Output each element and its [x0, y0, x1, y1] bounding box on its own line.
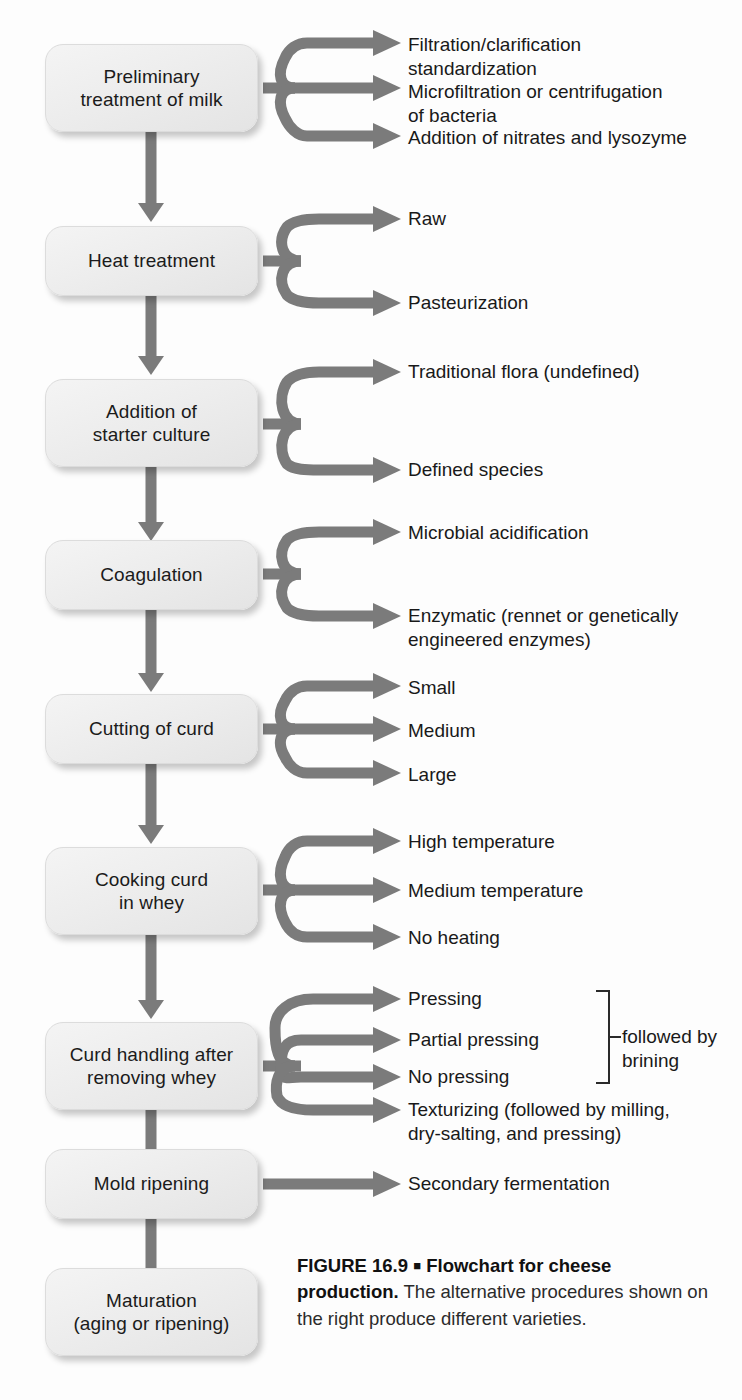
arrowhead-icon: [373, 673, 401, 699]
process-box-starter-culture: Addition of starter culture: [45, 379, 258, 467]
branch-option-label: Microbial acidification: [408, 521, 589, 545]
arrowhead-icon: [373, 760, 401, 786]
branch-option-label: Raw: [408, 207, 446, 231]
arrowhead-icon: [373, 924, 401, 950]
arrowhead-icon: [373, 877, 401, 903]
figure-separator-icon: ■: [413, 1258, 421, 1273]
connector-arrow-cutting-to-cooking: [138, 764, 164, 844]
branch-option-label: Texturizing (followed by milling, dry-sa…: [408, 1098, 670, 1145]
branch-group-coagulation: [255, 518, 415, 648]
branch-group-starter-culture: [255, 358, 415, 488]
bracket-note-label: followed by brining: [622, 1025, 717, 1072]
arrowhead-icon: [373, 519, 401, 545]
process-box-cutting-of-curd: Cutting of curd: [45, 694, 258, 764]
process-box-label: Cooking curd in whey: [95, 868, 208, 914]
figure-number: FIGURE 16.9: [297, 1255, 408, 1276]
arrowhead-icon: [373, 986, 401, 1012]
arrowhead-icon: [138, 522, 164, 541]
arrowhead-icon: [373, 1171, 401, 1197]
process-box-label: Addition of starter culture: [93, 400, 211, 446]
arrowhead-icon: [373, 123, 401, 149]
process-box-cooking-curd: Cooking curd in whey: [45, 847, 258, 935]
branch-group-heat-treatment: [255, 205, 415, 335]
branch-group-cutting-of-curd: [255, 665, 415, 805]
arrowhead-icon: [138, 825, 164, 844]
arrowhead-icon: [373, 828, 401, 854]
process-box-label: Coagulation: [100, 563, 203, 586]
arrowhead-icon: [138, 673, 164, 692]
process-box-curd-handling: Curd handling after removing whey: [45, 1022, 258, 1110]
branch-option-label: No pressing: [408, 1065, 509, 1089]
branch-option-label: Defined species: [408, 458, 543, 482]
arrowhead-icon: [373, 603, 401, 629]
branch-group-cooking-curd: [255, 817, 415, 957]
process-box-label: Heat treatment: [88, 249, 215, 272]
arrowhead-icon: [373, 290, 401, 316]
process-box-preliminary-treatment: Preliminary treatment of milk: [45, 44, 258, 132]
arrowhead-icon: [138, 356, 164, 375]
branch-group-mold-ripening: [255, 1160, 415, 1210]
process-box-mold-ripening: Mold ripening: [45, 1149, 258, 1219]
figure-flowchart-cheese-production: Preliminary treatment of milk Filtration…: [0, 0, 742, 1400]
arrowhead-icon: [373, 359, 401, 385]
arrowhead-icon: [373, 1097, 401, 1123]
arrowhead-icon: [373, 75, 401, 101]
connector-arrow-coagulation-to-cutting: [138, 610, 164, 692]
arrowhead-icon: [373, 1027, 401, 1053]
connector-arrow-cooking-to-curd-handling: [138, 935, 164, 1019]
connector-arrow-heat-to-starter: [138, 296, 164, 375]
branch-option-label: Medium temperature: [408, 879, 583, 903]
arrowhead-icon: [373, 206, 401, 232]
branch-option-label: Large: [408, 763, 457, 787]
arrowhead-icon: [138, 1000, 164, 1019]
bracket-followed-by-brining: [596, 990, 610, 1084]
process-box-maturation: Maturation (aging or ripening): [45, 1268, 258, 1356]
process-box-label: Maturation (aging or ripening): [73, 1289, 229, 1335]
connector-arrow-preliminary-to-heat: [138, 132, 164, 222]
branch-option-label: Addition of nitrates and lysozyme: [408, 126, 687, 150]
branch-option-label: Medium: [408, 719, 476, 743]
branch-option-label: Filtration/clarification standardization: [408, 33, 581, 80]
branch-option-label: Enzymatic (rennet or genetically enginee…: [408, 604, 678, 651]
process-box-label: Cutting of curd: [89, 717, 214, 740]
arrowhead-icon: [373, 30, 401, 56]
arrowhead-icon: [373, 457, 401, 483]
process-box-label: Curd handling after removing whey: [70, 1043, 234, 1089]
bracket-pointer-tick: [610, 1036, 621, 1038]
branch-option-label: Pasteurization: [408, 291, 528, 315]
branch-group-curd-handling: [255, 960, 415, 1120]
branch-group-preliminary-treatment: [255, 25, 415, 205]
process-box-coagulation: Coagulation: [45, 540, 258, 610]
arrowhead-icon: [138, 203, 164, 222]
connector-arrow-starter-to-coagulation: [138, 467, 164, 541]
process-box-label: Mold ripening: [94, 1172, 209, 1195]
arrowhead-icon: [373, 1064, 401, 1090]
branch-option-label: Partial pressing: [408, 1028, 539, 1052]
branch-option-label: Small: [408, 676, 456, 700]
figure-caption: FIGURE 16.9 ■ Flowchart for cheese produ…: [297, 1253, 717, 1332]
process-box-label: Preliminary treatment of milk: [80, 65, 222, 111]
arrowhead-icon: [373, 716, 401, 742]
branch-option-label: Traditional flora (undefined): [408, 360, 640, 384]
branch-option-label: Secondary fermentation: [408, 1172, 610, 1196]
branch-option-label: High temperature: [408, 830, 555, 854]
branch-option-label: Microfiltration or centrifugation of bac…: [408, 80, 663, 127]
branch-option-label: No heating: [408, 926, 500, 950]
process-box-heat-treatment: Heat treatment: [45, 226, 258, 296]
branch-option-label: Pressing: [408, 987, 482, 1011]
